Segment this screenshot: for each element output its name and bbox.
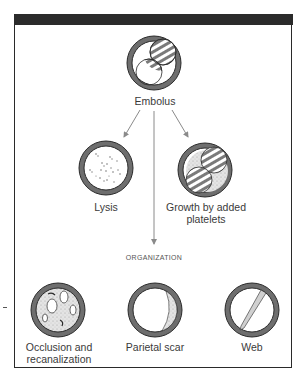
occlusion-vessel-icon	[31, 283, 85, 337]
arrow-to-lysis	[124, 110, 140, 137]
growth-vessel-icon	[178, 143, 232, 197]
embolus-vessel-icon	[127, 36, 181, 90]
label-occlusion: Occlusion and recanalization	[20, 341, 98, 365]
arrow-to-growth	[172, 110, 188, 137]
label-growth-line2: platelets	[164, 213, 248, 225]
label-growth: Growth by added platelets	[164, 201, 248, 225]
thrombus-fate-diagram	[0, 0, 305, 381]
parietal-scar-vessel-icon	[128, 283, 182, 337]
label-embolus: Embolus	[126, 95, 184, 107]
label-growth-line1: Growth by added	[164, 201, 248, 213]
web-vessel-icon	[225, 283, 279, 337]
lysis-vessel-icon	[79, 141, 133, 195]
label-lysis: Lysis	[86, 201, 126, 213]
label-web: Web	[232, 341, 272, 353]
label-occlusion-line1: Occlusion and	[20, 341, 98, 353]
label-parietal-scar: Parietal scar	[120, 341, 190, 353]
label-occlusion-line2: recanalization	[20, 353, 98, 365]
label-organization: ORGANIZATION	[118, 252, 190, 264]
